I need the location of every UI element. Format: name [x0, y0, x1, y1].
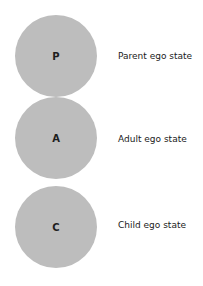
parent-letter: P: [52, 51, 59, 62]
parent-label: Parent ego state: [118, 50, 192, 62]
child-label: Child ego state: [118, 219, 186, 231]
child-circle: C: [15, 186, 97, 268]
adult-circle: A: [15, 97, 97, 179]
child-letter: C: [52, 222, 59, 233]
parent-circle: P: [15, 15, 97, 97]
adult-letter: A: [52, 133, 60, 144]
adult-label: Adult ego state: [118, 133, 187, 145]
